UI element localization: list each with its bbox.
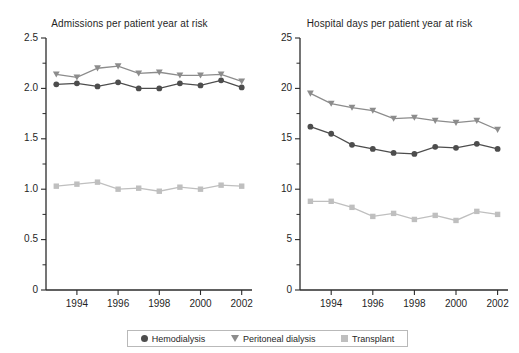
data-point-circle [328,131,334,137]
data-point-square [370,214,375,219]
y-tick-label: 0 [32,284,38,295]
x-tick-label: 2000 [445,298,468,309]
x-tick-label: 1998 [148,298,171,309]
data-point-circle [53,81,59,87]
data-point-circle [156,86,162,92]
legend-item-transplant: Transplant [341,334,394,344]
data-point-circle [474,141,480,147]
data-point-square [198,187,203,192]
data-point-circle [74,80,80,86]
y-tick-label: 5 [286,233,292,244]
data-point-square [115,187,120,192]
data-point-square [95,179,100,184]
data-point-square [474,209,479,214]
data-point-square [218,182,223,187]
legend-triangle-down-marker-icon [231,335,239,342]
legend-label-transplant: Transplant [352,334,394,344]
data-point-square [54,183,59,188]
x-tick-label: 1996 [107,298,130,309]
data-point-square [308,199,313,204]
series-line-transplant [56,182,241,191]
data-point-triangle-down [238,78,245,84]
y-tick-label: 25 [281,32,293,43]
data-point-circle [349,142,355,148]
data-point-circle [198,82,204,88]
chart-legend: Hemodialysis Peritoneal dialysis Transpl… [127,330,408,347]
y-tick-label: 15 [281,132,293,143]
x-tick-label: 1996 [362,298,385,309]
x-tick-label: 1994 [66,298,89,309]
x-tick-label: 2002 [231,298,254,309]
data-point-square [433,213,438,218]
series-line-transplant [310,201,497,220]
data-point-circle [115,79,121,85]
data-point-circle [453,145,459,151]
legend-circle-marker-icon [141,335,148,342]
y-tick-label: 1.5 [24,132,38,143]
data-point-circle [412,151,418,157]
y-tick-label: 20 [281,82,293,93]
figure-root: Admissions per patient year at risk 00.5… [0,0,519,353]
data-point-square [157,189,162,194]
data-point-circle [218,77,224,83]
data-point-circle [370,146,376,152]
data-point-circle [177,80,183,86]
chart-panel-admissions: Admissions per patient year at risk 00.5… [0,0,259,320]
data-point-circle [95,83,101,89]
data-point-square [495,212,500,217]
data-point-square [349,205,354,210]
data-point-square [177,184,182,189]
plot-area-right: 051015202519941996199820002002 [260,0,519,320]
y-tick-label: 2.0 [24,82,38,93]
series-line-hemodialysis [56,80,241,88]
data-point-circle [308,124,314,130]
data-point-circle [239,84,245,90]
data-point-triangle-down [307,91,314,97]
data-point-square [412,217,417,222]
legend-label-peritoneal-dialysis: Peritoneal dialysis [243,334,316,344]
series-line-peritoneal-dialysis [56,66,241,81]
legend-square-marker-icon [341,335,348,342]
x-tick-label: 2002 [486,298,509,309]
data-point-circle [432,144,438,150]
data-point-square [239,183,244,188]
data-point-square [329,199,334,204]
legend-item-peritoneal-dialysis: Peritoneal dialysis [231,334,316,344]
y-tick-label: 10 [281,183,293,194]
series-line-hemodialysis [310,127,497,154]
data-point-square [453,218,458,223]
data-point-circle [136,86,142,92]
data-point-square [136,185,141,190]
data-point-square [391,211,396,216]
chart-panel-hospital-days: Hospital days per patient year at risk 0… [260,0,519,320]
y-tick-label: 1.0 [24,183,38,194]
plot-area-left: 00.51.01.52.02.519941996199820002002 [0,0,259,320]
x-tick-label: 1998 [403,298,426,309]
legend-item-hemodialysis: Hemodialysis [141,334,206,344]
data-point-circle [495,146,501,152]
x-tick-label: 2000 [189,298,212,309]
series-line-peritoneal-dialysis [310,93,497,129]
y-tick-label: 0.5 [24,233,38,244]
legend-label-hemodialysis: Hemodialysis [152,334,206,344]
data-point-circle [391,150,397,156]
y-tick-label: 0 [286,284,292,295]
data-point-triangle-down [494,127,501,133]
y-tick-label: 2.5 [24,32,38,43]
x-tick-label: 1994 [320,298,343,309]
data-point-square [74,181,79,186]
